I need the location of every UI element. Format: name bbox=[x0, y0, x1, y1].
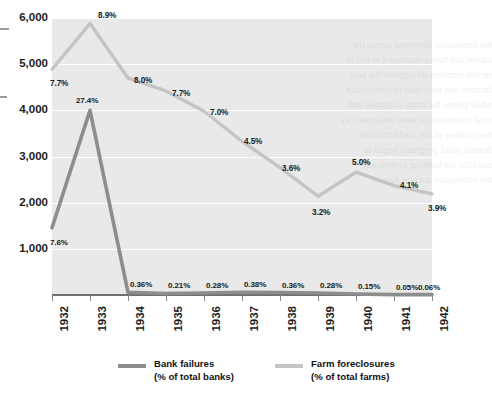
legend-label-farm-foreclosures: Farm foreclosures (% of total farms) bbox=[311, 358, 395, 383]
data-label-farm-1937: 4.5% bbox=[244, 137, 262, 146]
data-label-bank-1938: 0.36% bbox=[282, 281, 304, 290]
x-axis-tick-1937 bbox=[242, 295, 243, 301]
data-label-bank-1940: 0.15% bbox=[358, 282, 380, 291]
x-axis-tick-1936 bbox=[204, 295, 205, 301]
data-label-farm-1938: 3.6% bbox=[282, 164, 300, 173]
data-label-farm-1932: 7.7% bbox=[50, 79, 68, 88]
legend-unit-farm-foreclosures: (% of total farms) bbox=[311, 371, 389, 382]
chart-legend: Bank failures (% of total banks) Farm fo… bbox=[0, 358, 462, 392]
x-axis-label-1933: 1933 bbox=[96, 306, 108, 332]
x-axis-tick-1938 bbox=[280, 295, 281, 301]
data-label-farm-1934: 8.0% bbox=[134, 76, 152, 85]
x-axis-tick-1934 bbox=[128, 295, 129, 301]
x-axis-label-1937: 1937 bbox=[248, 306, 260, 332]
x-axis-label-1935: 1935 bbox=[172, 306, 184, 332]
legend-item-farm-foreclosures: Farm foreclosures (% of total farms) bbox=[275, 358, 395, 383]
legend-swatch-bank-failures bbox=[118, 364, 146, 368]
data-label-bank-1941: 0.05% bbox=[396, 283, 418, 292]
data-label-bank-1935: 0.21% bbox=[168, 281, 190, 290]
data-label-farm-1936: 7.0% bbox=[210, 108, 228, 117]
data-label-bank-1933: 27.4% bbox=[76, 96, 98, 105]
data-label-bank-1939: 0.28% bbox=[320, 281, 342, 290]
legend-item-bank-failures: Bank failures (% of total banks) bbox=[118, 358, 234, 383]
data-label-farm-1942: 3.9% bbox=[428, 204, 446, 213]
data-label-bank-1937: 0.38% bbox=[244, 280, 266, 289]
farm-foreclosures-line bbox=[52, 24, 432, 197]
legend-name-farm-foreclosures: Farm foreclosures bbox=[311, 358, 395, 369]
data-label-bank-1936: 0.28% bbox=[206, 281, 228, 290]
x-axis-tick-1932 bbox=[52, 295, 53, 301]
x-axis-label-1936: 1936 bbox=[210, 306, 222, 332]
x-axis-tick-1941 bbox=[394, 295, 395, 301]
x-axis-label-1939: 1939 bbox=[324, 306, 336, 332]
data-label-farm-1933: 8.9% bbox=[98, 11, 116, 20]
x-axis-tick-1940 bbox=[356, 295, 357, 301]
bank-failures-line bbox=[52, 110, 432, 294]
data-label-farm-1939: 3.2% bbox=[312, 208, 330, 217]
x-axis-label-1938: 1938 bbox=[286, 306, 298, 332]
x-axis-label-1941: 1941 bbox=[400, 306, 412, 332]
data-label-farm-1940: 5.0% bbox=[352, 158, 370, 167]
legend-name-bank-failures: Bank failures bbox=[154, 358, 214, 369]
legend-label-bank-failures: Bank failures (% of total banks) bbox=[154, 358, 234, 383]
x-axis-label-1942: 1942 bbox=[438, 306, 450, 332]
x-axis-tick-1935 bbox=[166, 295, 167, 301]
data-label-bank-1932: 7.6% bbox=[50, 238, 68, 247]
data-label-bank-1934: 0.36% bbox=[130, 280, 152, 289]
x-axis-label-1932: 1932 bbox=[58, 306, 70, 332]
x-axis-tick-1933 bbox=[90, 295, 91, 301]
x-axis-label-1940: 1940 bbox=[362, 306, 374, 332]
x-axis-label-1934: 1934 bbox=[134, 306, 146, 332]
legend-unit-bank-failures: (% of total banks) bbox=[154, 371, 234, 382]
data-label-bank-1942: 0.06% bbox=[418, 283, 440, 292]
legend-swatch-farm-foreclosures bbox=[275, 364, 303, 368]
data-label-farm-1941: 4.1% bbox=[400, 181, 418, 190]
x-axis-tick-1942 bbox=[432, 295, 433, 301]
x-axis-tick-1939 bbox=[318, 295, 319, 301]
data-label-farm-1935: 7.7% bbox=[172, 89, 190, 98]
